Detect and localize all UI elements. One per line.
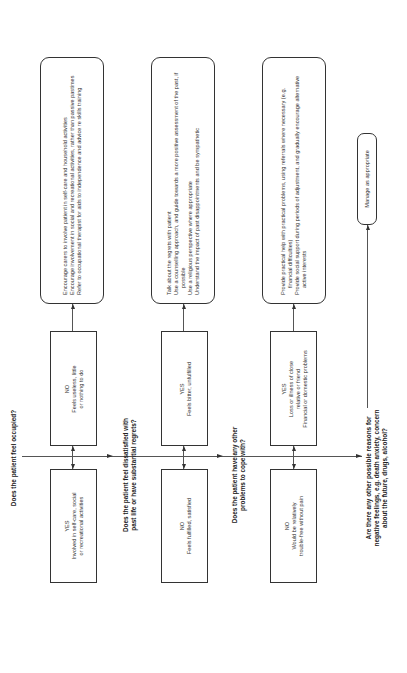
question-3-line-2: problems to cope with? [239, 439, 247, 511]
answer-label: YES [178, 383, 185, 394]
answer-label: NO [283, 522, 290, 530]
action-item: Provide social support during periods of… [294, 67, 308, 295]
answer-box-yes-bitter: YES Feels bitter, unfulfilled [161, 331, 208, 446]
answer-text: Feels fulfilled, satisfied [185, 498, 192, 554]
action-item: Encourage carers to involve patient in s… [62, 117, 69, 295]
question-4-line-3: about the future, drugs, alcohol? [381, 428, 389, 528]
question-1: Does the patient feel occupied? [6, 385, 22, 530]
arrow-up-icon [71, 304, 75, 309]
answer-box-no-fulfilled: NO Feels fulfilled, satisfied [161, 469, 208, 583]
action-box-regrets: Talk about the regrets with patient Use … [151, 57, 215, 304]
question-2-line-1: Does the patient feel dissatisfied with [122, 418, 130, 532]
connector-4-up [367, 225, 368, 408]
arrow-up-icon [71, 446, 75, 451]
action-box-occupation: Encourage carers to involve patient in s… [40, 57, 104, 304]
answer-box-no-trouble-free: NO Would be relatively trouble-free with… [270, 469, 317, 583]
question-4: Are there any other possible reasons for… [362, 380, 392, 575]
flow-arrow-1 [107, 454, 113, 458]
main-flow-line [22, 456, 362, 457]
answer-label: YES [280, 383, 287, 394]
answer-text: or recreational activities [77, 497, 84, 556]
answer-box-no-useless: NO Feels useless, little or nothing to d… [50, 331, 97, 446]
answer-text: Financial or domestic problems [301, 350, 308, 427]
answer-box-yes-loss: YES Loss or illness of close relative or… [270, 331, 317, 446]
answer-label: NO [178, 522, 185, 530]
answer-text: or nothing to do [77, 369, 84, 408]
action-item: Understand the impact of past disappoint… [194, 128, 201, 295]
question-4-line-1: Are there any other possible reasons for [365, 416, 373, 539]
answer-text: trouble-free without pain [297, 496, 304, 556]
action-item: Refer to occupational therapist for aids… [76, 87, 83, 294]
answer-label: NO [63, 384, 70, 392]
final-action-box: Manage as appropriate [357, 133, 377, 225]
answer-box-yes-involved: YES Involved in self-care, social or rec… [50, 469, 97, 583]
answer-text: Loss or illness of close [287, 360, 294, 416]
answer-text: Feels bitter, unfulfilled [185, 361, 192, 415]
answer-text: Would be relatively [290, 502, 297, 549]
final-action-text: Manage as appropriate [364, 150, 371, 208]
action-item: Use a counselling approach, and guide to… [173, 67, 187, 295]
arrow-up-icon [182, 304, 186, 309]
flow-arrow-2 [217, 454, 223, 458]
question-4-line-2: negative feelings, e.g. death anxiety, c… [373, 409, 381, 546]
action-item: Use a religious perspective where approp… [187, 181, 194, 295]
action-item: Encourage involvement in social and recr… [69, 75, 76, 295]
question-2-line-2: past life or have substantial regrets? [130, 419, 138, 531]
arrow-up-icon [292, 446, 296, 451]
answer-text: relative or friend [294, 368, 301, 408]
arrow-up-icon [292, 304, 296, 309]
answer-text: Involved in self-care, social [70, 492, 77, 559]
answer-label: YES [63, 520, 70, 531]
action-item: Provide practical help with practical pr… [280, 67, 294, 295]
arrow-up-icon [366, 225, 370, 230]
question-3: Does the patient have any other problems… [228, 395, 250, 555]
question-1-line-1: Does the patient feel occupied? [10, 409, 18, 505]
answer-text: Feels useless, little [70, 365, 77, 412]
arrow-up-icon [182, 446, 186, 451]
question-3-line-1: Does the patient have any other [231, 427, 239, 524]
action-box-problems: Provide practical help with practical pr… [262, 57, 326, 304]
question-2: Does the patient feel dissatisfied with … [119, 380, 141, 570]
action-item: Talk about the regrets with patient [166, 211, 173, 295]
